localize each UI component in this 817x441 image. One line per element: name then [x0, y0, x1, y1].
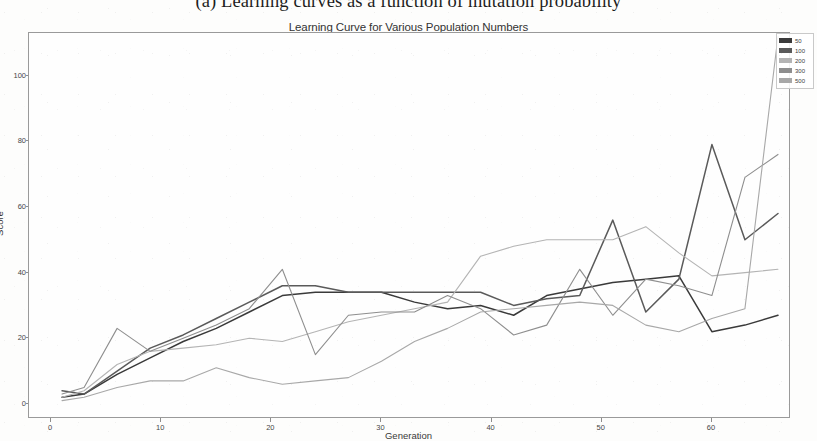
legend-item: 500 — [779, 76, 811, 85]
legend-item: 300 — [779, 66, 811, 75]
legend-label: 100 — [795, 48, 805, 54]
y-tick-label: 60 — [4, 201, 26, 210]
legend-label: 300 — [795, 68, 805, 74]
series-line-100 — [62, 145, 778, 394]
figure-caption: (a) Learning curves as a function of mut… — [0, 0, 817, 12]
legend-item: 200 — [779, 56, 811, 65]
legend-label: 200 — [795, 58, 805, 64]
x-tick-mark — [380, 418, 381, 422]
x-tick-mark — [160, 418, 161, 422]
legend-item: 50 — [779, 36, 811, 45]
x-tick-mark — [270, 418, 271, 422]
series-line-500 — [62, 36, 778, 400]
figure-page: (a) Learning curves as a function of mut… — [0, 0, 817, 441]
legend-swatch — [779, 78, 792, 83]
y-tick-label: 40 — [4, 267, 26, 276]
series-line-200 — [62, 227, 778, 398]
legend-label: 500 — [795, 78, 805, 84]
chart-legend: 50100200300500 — [776, 33, 814, 89]
y-tick-label: 100 — [4, 70, 26, 79]
legend-item: 100 — [779, 46, 811, 55]
line-chart-svg — [29, 33, 789, 417]
plot-area — [28, 32, 790, 418]
legend-swatch — [779, 48, 792, 53]
x-tick-mark — [50, 418, 51, 422]
y-tick-label: 80 — [4, 136, 26, 145]
series-group — [62, 36, 778, 400]
legend-swatch — [779, 68, 792, 73]
x-tick-mark — [601, 418, 602, 422]
x-tick-mark — [491, 418, 492, 422]
y-tick-label: 20 — [4, 333, 26, 342]
series-line-300 — [62, 154, 778, 394]
legend-swatch — [779, 58, 792, 63]
legend-label: 50 — [795, 38, 802, 44]
x-tick-mark — [711, 418, 712, 422]
y-axis-ticks: 020406080100 — [0, 32, 26, 418]
y-tick-label: 0 — [4, 398, 26, 407]
x-axis-label: Generation — [0, 430, 817, 441]
legend-swatch — [779, 38, 792, 43]
series-line-50 — [62, 276, 778, 397]
